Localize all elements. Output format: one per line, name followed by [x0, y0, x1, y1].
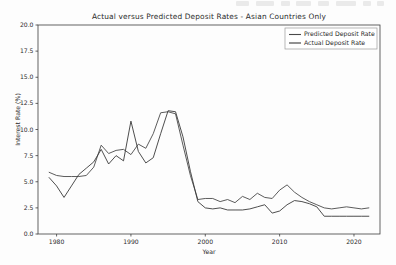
y-tick-label: 10.0 [20, 126, 34, 133]
y-tick-label: 2.5 [24, 204, 34, 211]
y-axis-ticks: 0.02.55.07.510.012.515.017.520.0 [20, 21, 38, 237]
y-tick-label: 5.0 [24, 178, 34, 185]
x-axis-ticks: 19801990200020102020 [49, 234, 362, 245]
x-tick-label: 2020 [346, 238, 362, 245]
x-tick-label: 1990 [123, 238, 139, 245]
x-tick-label: 2010 [272, 238, 288, 245]
series-line-predicted-deposit-rate [49, 112, 369, 209]
chart-legend: Predicted Deposit RateActual Deposit Rat… [285, 28, 377, 49]
x-tick-label: 1980 [49, 238, 65, 245]
series-line-actual-deposit-rate [49, 111, 369, 217]
y-tick-label: 17.5 [20, 47, 34, 54]
y-tick-label: 20.0 [20, 21, 34, 28]
legend-label: Predicted Deposit Rate [304, 30, 375, 38]
x-tick-label: 2000 [198, 238, 214, 245]
plot-frame-border [38, 25, 380, 234]
legend-label: Actual Deposit Rate [304, 39, 365, 47]
y-tick-label: 0.0 [24, 230, 34, 237]
y-tick-label: 12.5 [20, 99, 34, 106]
chart-figure: Actual versus Predicted Deposit Rates - … [0, 0, 396, 265]
plot-canvas: 0.02.55.07.510.012.515.017.520.0 1980199… [0, 0, 396, 265]
axes-frame [38, 25, 380, 234]
y-tick-label: 15.0 [20, 73, 34, 80]
y-tick-label: 7.5 [24, 152, 34, 159]
data-series-group [49, 111, 369, 217]
